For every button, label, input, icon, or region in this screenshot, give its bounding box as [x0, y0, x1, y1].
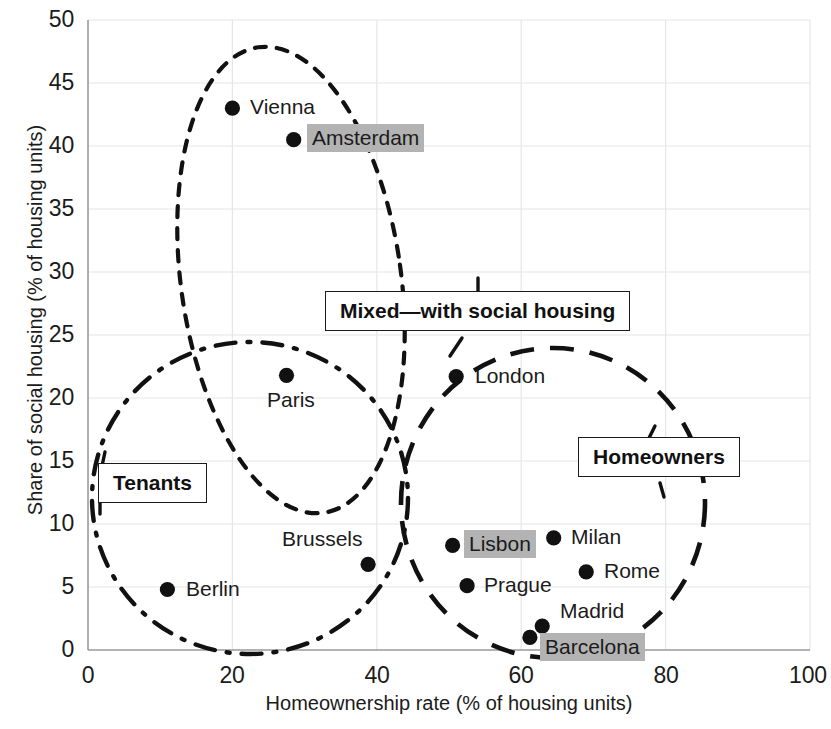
- label-vienna: Vienna: [245, 93, 320, 121]
- homeowners-ellipse-shape: [401, 348, 705, 658]
- point-amsterdam: [286, 132, 301, 147]
- point-rome: [579, 564, 594, 579]
- point-madrid: [535, 619, 550, 634]
- point-vienna: [225, 101, 240, 116]
- x-tick-0: 0: [58, 662, 118, 689]
- y-tick-0: 0: [18, 636, 74, 663]
- label-barcelona: Barcelona: [540, 633, 645, 661]
- x-tick-40: 40: [347, 662, 407, 689]
- point-lisbon: [445, 538, 460, 553]
- annotation-homeowners: Homeowners: [578, 437, 740, 477]
- y-tick-50: 50: [18, 6, 74, 33]
- label-berlin: Berlin: [181, 575, 245, 603]
- label-paris: Paris: [262, 386, 320, 414]
- label-amsterdam: Amsterdam: [307, 124, 424, 152]
- label-prague: Prague: [479, 571, 557, 599]
- point-london: [449, 369, 464, 384]
- mixed-leader-bottom: [450, 338, 462, 356]
- annotation-tenants: Tenants: [98, 463, 207, 503]
- point-paris: [279, 368, 294, 383]
- point-milan: [546, 530, 561, 545]
- x-tick-100: 100: [778, 662, 831, 689]
- label-rome: Rome: [599, 557, 665, 585]
- y-axis-title: Share of social housing (% of housing un…: [24, 40, 47, 600]
- point-prague: [460, 578, 475, 593]
- point-barcelona: [522, 630, 537, 645]
- x-tick-80: 80: [636, 662, 696, 689]
- annotation-mixed: Mixed—with social housing: [325, 291, 630, 331]
- x-axis-title: Homeownership rate (% of housing units): [88, 692, 810, 715]
- x-tick-60: 60: [491, 662, 551, 689]
- label-brussels: Brussels: [277, 525, 368, 553]
- label-madrid: Madrid: [555, 597, 629, 625]
- point-berlin: [160, 582, 175, 597]
- label-milan: Milan: [566, 523, 626, 551]
- label-lisbon: Lisbon: [464, 530, 536, 558]
- point-brussels: [361, 557, 376, 572]
- x-tick-20: 20: [202, 662, 262, 689]
- homeowners-leader-bottom: [660, 483, 664, 497]
- label-london: London: [470, 362, 550, 390]
